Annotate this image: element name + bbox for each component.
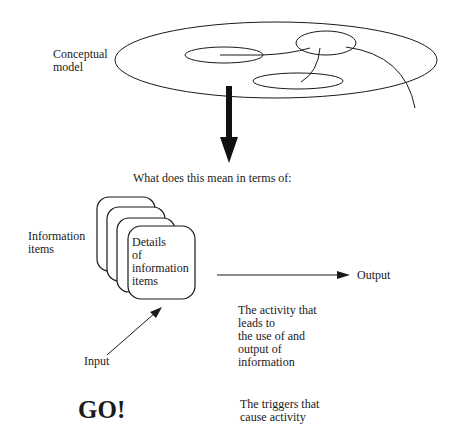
connector-left-to-right xyxy=(220,48,310,55)
activity-label: The activity that leads to the use of an… xyxy=(238,304,317,369)
input-label: Input xyxy=(84,355,109,368)
down-arrow-head xyxy=(220,137,238,163)
down-arrow-shaft xyxy=(226,86,232,138)
inner-ellipse-right xyxy=(296,31,356,55)
triggers-label: The triggers that cause activity xyxy=(240,398,319,424)
information-items-label: Information items xyxy=(28,230,85,256)
go-label: GO! xyxy=(78,396,125,424)
output-arrow-head xyxy=(337,271,350,279)
conceptual-model-label: Conceptual model xyxy=(53,48,108,74)
input-arrow-line xyxy=(107,313,155,355)
output-label: Output xyxy=(357,269,390,282)
connector-right-outward xyxy=(346,47,415,108)
question-label: What does this mean in terms of: xyxy=(133,172,292,185)
conceptual-model-ellipse xyxy=(115,22,437,98)
inner-ellipse-bottom xyxy=(253,73,343,89)
details-label: Details of information items xyxy=(132,236,189,288)
